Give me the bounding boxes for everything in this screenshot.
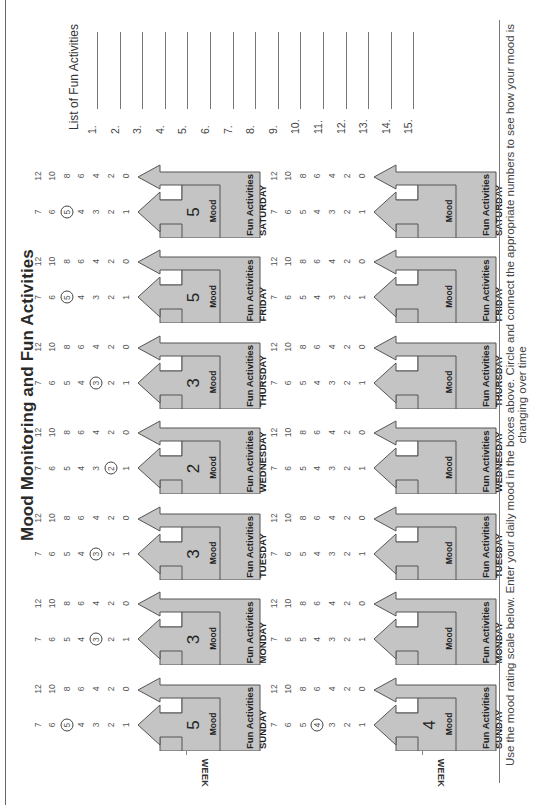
fun-list-item-field[interactable] (97, 32, 98, 109)
fun-scale-number[interactable]: 6 (76, 345, 86, 350)
mood-scale-number[interactable]: 3 (327, 723, 337, 728)
mood-scale-number[interactable]: 2 (342, 723, 352, 728)
fun-scale-number[interactable]: 8 (298, 345, 308, 350)
fun-scale-number[interactable]: 12 (33, 428, 43, 437)
mood-scale-number[interactable]: 6 (47, 381, 57, 386)
fun-scale-number[interactable]: 4 (91, 430, 101, 435)
mood-scale-number[interactable]: 2 (106, 723, 116, 728)
fun-list-item-field[interactable] (210, 32, 211, 109)
mood-scale-number[interactable]: 2 (106, 295, 116, 300)
fun-scale-number[interactable]: 6 (76, 174, 86, 179)
fun-scale-number[interactable]: 8 (62, 687, 72, 692)
fun-scale-number[interactable]: 6 (312, 259, 322, 264)
mood-scale-number[interactable]: 7 (269, 210, 279, 215)
fun-scale-number[interactable]: 10 (47, 342, 57, 351)
mood-scale-number[interactable]: 2 (106, 381, 116, 386)
fun-scale-number[interactable]: 6 (76, 430, 86, 435)
fun-scale-number[interactable]: 10 (47, 513, 57, 522)
mood-scale-number[interactable]: 2 (106, 552, 116, 557)
fun-scale-number[interactable]: 4 (327, 430, 337, 435)
fun-scale-number[interactable]: 10 (283, 171, 293, 180)
fun-list-item-field[interactable] (187, 32, 188, 109)
fun-scale-number[interactable]: 2 (106, 430, 116, 435)
mood-scale-number[interactable]: 5 (298, 723, 308, 728)
mood-scale-number[interactable]: 5 (61, 206, 74, 219)
mood-scale-number[interactable]: 4 (76, 295, 86, 300)
mood-scale-number[interactable]: 5 (62, 552, 72, 557)
mood-scale-number[interactable]: 6 (47, 723, 57, 728)
fun-scale-number[interactable]: 4 (327, 174, 337, 179)
mood-scale-number[interactable]: 3 (90, 633, 103, 646)
fun-scale-number[interactable]: 6 (312, 345, 322, 350)
mood-scale-number[interactable]: 7 (269, 723, 279, 728)
fun-list-item-field[interactable] (391, 32, 392, 109)
fun-scale-number[interactable]: 12 (33, 599, 43, 608)
mood-scale-number[interactable]: 6 (283, 466, 293, 471)
mood-scale-number[interactable]: 5 (62, 466, 72, 471)
fun-scale-number[interactable]: 12 (269, 257, 279, 266)
fun-scale-number[interactable]: 8 (62, 430, 72, 435)
mood-scale-number[interactable]: 6 (47, 637, 57, 642)
mood-scale-number[interactable]: 4 (312, 381, 322, 386)
mood-scale-number[interactable]: 3 (91, 466, 101, 471)
mood-scale-number[interactable]: 5 (298, 210, 308, 215)
fun-scale-number[interactable]: 6 (312, 601, 322, 606)
fun-scale-number[interactable]: 2 (342, 516, 352, 521)
fun-scale-number[interactable]: 8 (298, 516, 308, 521)
mood-scale-number[interactable]: 7 (269, 381, 279, 386)
mood-scale-number[interactable]: 2 (106, 210, 116, 215)
fun-scale-number[interactable]: 6 (312, 687, 322, 692)
fun-scale-number[interactable]: 12 (269, 171, 279, 180)
mood-scale-number[interactable]: 5 (298, 637, 308, 642)
mood-scale-number[interactable]: 2 (342, 466, 352, 471)
fun-scale-number[interactable]: 2 (342, 345, 352, 350)
fun-scale-number[interactable]: 4 (327, 345, 337, 350)
mood-scale-number[interactable]: 6 (283, 723, 293, 728)
fun-scale-number[interactable]: 2 (342, 259, 352, 264)
mood-value[interactable]: 5 (184, 293, 204, 302)
fun-scale-number[interactable]: 8 (62, 345, 72, 350)
fun-scale-number[interactable]: 6 (76, 687, 86, 692)
fun-scale-number[interactable]: 8 (62, 516, 72, 521)
mood-scale-number[interactable]: 5 (62, 637, 72, 642)
mood-scale-number[interactable]: 4 (76, 210, 86, 215)
fun-scale-number[interactable]: 10 (283, 513, 293, 522)
mood-scale-number[interactable]: 7 (33, 723, 43, 728)
mood-scale-number[interactable]: 5 (62, 381, 72, 386)
fun-scale-number[interactable]: 6 (76, 516, 86, 521)
mood-scale-number[interactable]: 3 (327, 637, 337, 642)
fun-scale-number[interactable]: 10 (47, 257, 57, 266)
mood-scale-number[interactable]: 7 (33, 295, 43, 300)
fun-scale-number[interactable]: 4 (327, 516, 337, 521)
fun-scale-number[interactable]: 12 (33, 513, 43, 522)
fun-scale-number[interactable]: 2 (106, 174, 116, 179)
fun-scale-number[interactable]: 12 (269, 599, 279, 608)
fun-scale-number[interactable]: 4 (91, 174, 101, 179)
mood-scale-number[interactable]: 2 (106, 637, 116, 642)
mood-scale-number[interactable]: 2 (342, 210, 352, 215)
fun-scale-number[interactable]: 12 (269, 513, 279, 522)
mood-scale-number[interactable]: 2 (105, 462, 118, 475)
fun-scale-number[interactable]: 12 (33, 684, 43, 693)
mood-scale-number[interactable]: 5 (61, 719, 74, 732)
mood-scale-number[interactable]: 6 (283, 637, 293, 642)
mood-scale-number[interactable]: 2 (342, 295, 352, 300)
fun-scale-number[interactable]: 4 (327, 687, 337, 692)
mood-scale-number[interactable]: 4 (312, 637, 322, 642)
mood-scale-number[interactable]: 6 (283, 552, 293, 557)
fun-scale-number[interactable]: 8 (298, 259, 308, 264)
fun-scale-number[interactable]: 12 (33, 257, 43, 266)
mood-scale-number[interactable]: 6 (47, 210, 57, 215)
mood-value[interactable]: 2 (184, 464, 204, 473)
mood-scale-number[interactable]: 4 (312, 552, 322, 557)
mood-scale-number[interactable]: 7 (33, 637, 43, 642)
mood-scale-number[interactable]: 6 (47, 295, 57, 300)
fun-list-item-field[interactable] (413, 32, 414, 109)
fun-scale-number[interactable]: 2 (342, 430, 352, 435)
fun-scale-number[interactable]: 8 (298, 430, 308, 435)
mood-scale-number[interactable]: 7 (33, 466, 43, 471)
mood-scale-number[interactable]: 3 (327, 466, 337, 471)
mood-scale-number[interactable]: 7 (269, 552, 279, 557)
mood-scale-number[interactable]: 5 (298, 552, 308, 557)
fun-scale-number[interactable]: 10 (47, 428, 57, 437)
